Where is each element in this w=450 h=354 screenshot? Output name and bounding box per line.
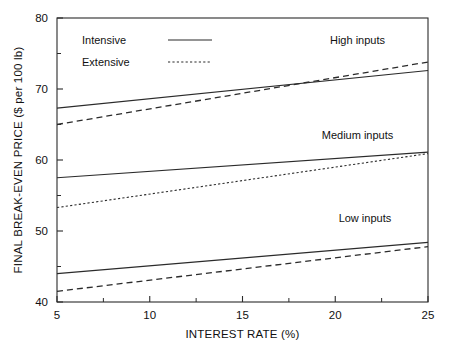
annotation-medium-inputs: Medium inputs [322,129,394,141]
chart-canvas: 4050607080510152025INTEREST RATE (%)FINA… [0,0,450,354]
annotation-high-inputs: High inputs [330,34,386,46]
y-tick-label-40: 40 [35,296,48,308]
x-tick-label-10: 10 [143,309,156,321]
y-tick-label-50: 50 [35,225,48,237]
y-tick-label-70: 70 [35,83,48,95]
x-tick-label-5: 5 [54,309,60,321]
legend-label-intensive: Intensive [82,34,126,46]
series-line-medium-inputs-extensive [57,154,428,208]
y-tick-label-60: 60 [35,154,48,166]
x-axis-title: INTEREST RATE (%) [185,328,299,340]
series-line-medium-inputs-intensive [57,152,428,178]
y-tick-label-80: 80 [35,12,48,24]
y-axis-title: FINAL BREAK-EVEN PRICE ($ per 100 lb) [12,47,24,274]
annotation-low-inputs: Low inputs [339,212,392,224]
series-line-low-inputs-intensive [57,242,428,273]
series-line-high-inputs-extensive [57,62,428,124]
break-even-price-chart: 4050607080510152025INTEREST RATE (%)FINA… [0,0,450,354]
legend-label-extensive: Extensive [82,56,130,68]
series-line-high-inputs-intensive [57,71,428,109]
x-tick-label-20: 20 [329,309,342,321]
x-tick-label-25: 25 [422,309,435,321]
x-tick-label-15: 15 [236,309,249,321]
